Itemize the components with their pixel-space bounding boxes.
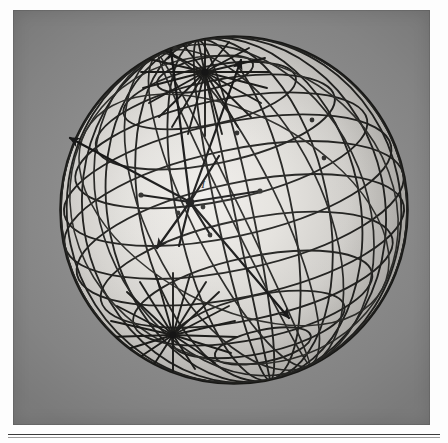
marked-point [201, 205, 206, 210]
celestial-sphere-figure: I [13, 10, 430, 425]
figure-page: I [0, 0, 448, 443]
marked-point [235, 131, 240, 136]
marked-point [208, 233, 213, 238]
marked-point [310, 118, 315, 123]
marked-point [176, 211, 181, 216]
marked-point [186, 198, 195, 207]
marked-point [138, 192, 143, 197]
marked-point [173, 46, 177, 50]
marked-point [322, 156, 327, 161]
page-divider-rule-secondary [8, 437, 440, 438]
marked-point [257, 188, 262, 193]
page-divider-rule [8, 434, 440, 435]
photographic-plate: I [13, 10, 430, 425]
